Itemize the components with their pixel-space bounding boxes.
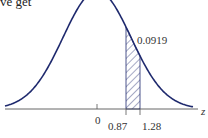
normal-curve-diagram (0, 0, 208, 138)
tick-label-upper: 1.28 (142, 121, 161, 132)
tick-label-zero: 0 (95, 115, 101, 126)
tick-label-lower: 0.87 (108, 121, 127, 132)
area-value-label: 0.0919 (137, 35, 167, 46)
axis-variable-label: z (201, 106, 205, 117)
bell-curve (5, 0, 193, 107)
